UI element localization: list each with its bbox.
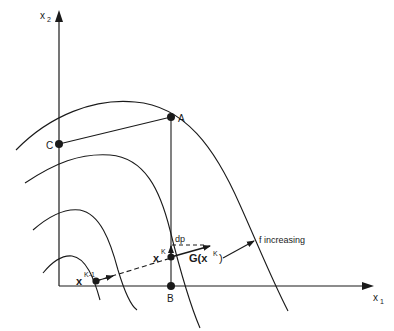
point-xk [167, 253, 174, 260]
f-increasing-arrow [223, 241, 254, 258]
label-b: B [167, 293, 174, 304]
x1-axis-arrowhead [362, 282, 374, 290]
x1-axis-label: x [373, 292, 378, 303]
optimization-diagram: x 2 x 1 A C B x K x K-1 dp G(x K ) f inc… [0, 0, 394, 331]
label-xk-sup: K [161, 248, 166, 255]
contour-curve-1 [16, 101, 288, 311]
point-a [167, 113, 175, 121]
x2-axis-arrowhead [55, 10, 63, 22]
label-dp: dp [175, 234, 185, 244]
label-xk: x [153, 252, 160, 264]
contour-curve-3 [33, 210, 137, 310]
label-xk-1: x [76, 275, 83, 287]
point-b [167, 282, 175, 290]
label-gradient-sup: K [213, 250, 218, 257]
label-a: A [178, 113, 185, 124]
x1-axis-subscript: 1 [380, 298, 384, 305]
x2-axis-label: x [40, 10, 45, 21]
point-xk-1 [92, 277, 99, 284]
label-xk-1-sup: K-1 [84, 271, 95, 278]
label-c: C [46, 140, 53, 151]
label-f-increasing: f increasing [259, 235, 305, 245]
label-gradient: G(x [189, 252, 208, 264]
line-c-to-a [59, 117, 171, 144]
contour-curve-2 [25, 155, 200, 328]
point-c [55, 140, 63, 148]
label-gradient-close: ) [219, 252, 223, 264]
x2-axis-subscript: 2 [47, 16, 51, 23]
